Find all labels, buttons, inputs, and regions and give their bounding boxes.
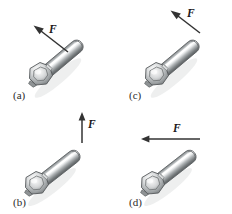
wrench-d <box>141 148 199 210</box>
force-label-a: F <box>48 23 57 35</box>
wrench-b <box>25 148 83 210</box>
panel-label-b: (b) <box>13 196 26 209</box>
force-label-c: F <box>186 7 195 19</box>
panel-label-d: (d) <box>129 196 142 209</box>
force-label-d: F <box>172 122 181 134</box>
force-arrow-d <box>141 136 200 143</box>
panel-a: F (a) <box>0 0 116 107</box>
force-arrow-b <box>79 112 86 143</box>
wrench-a <box>29 38 86 102</box>
panel-label-a: (a) <box>13 89 26 102</box>
force-arrow-c <box>171 11 201 34</box>
wrench-force-direction-figure: F (a) <box>0 0 232 214</box>
panel-label-c: (c) <box>129 89 142 102</box>
force-label-b: F <box>87 118 96 130</box>
panel-d: F (d) <box>116 107 232 214</box>
wrench-c <box>145 38 202 102</box>
panel-c: F (c) <box>116 0 232 107</box>
panel-b: F (b) <box>0 107 116 214</box>
